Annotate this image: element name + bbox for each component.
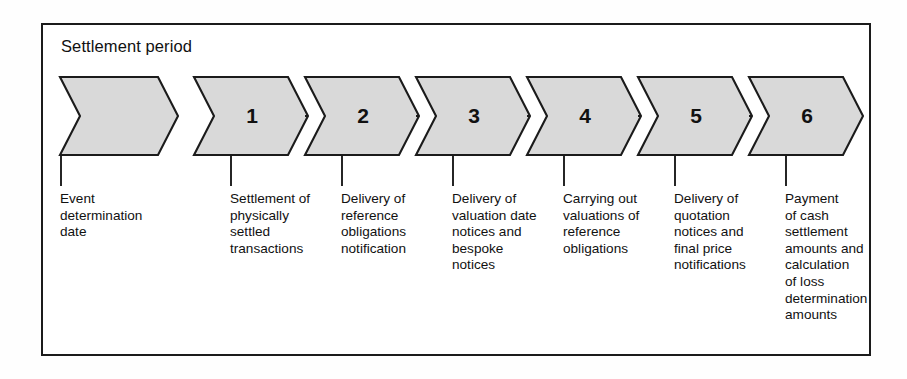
step-label-4: Carrying out valuations of reference obl… — [563, 191, 661, 257]
settlement-period-frame: Settlement period 123456 Event determina… — [41, 23, 871, 356]
chevron-number-4: 4 — [579, 104, 591, 127]
diagram-page: Settlement period 123456 Event determina… — [0, 0, 907, 379]
chevron-number-6: 6 — [801, 104, 813, 127]
chevron-number-3: 3 — [468, 104, 480, 127]
step-label-6: Payment of cash settlement amounts and c… — [785, 191, 883, 324]
chevron-number-5: 5 — [690, 104, 702, 127]
chevron-number-1: 1 — [246, 104, 258, 127]
step-label-start: Event determination date — [60, 191, 168, 241]
chevron-step-start — [60, 77, 178, 155]
step-label-3: Delivery of valuation date notices and b… — [452, 191, 550, 274]
step-label-2: Delivery of reference obligations notifi… — [341, 191, 439, 257]
step-label-5: Delivery of quotation notices and final … — [674, 191, 772, 274]
step-label-1: Settlement of physically settled transac… — [230, 191, 328, 257]
chevron-number-2: 2 — [357, 104, 369, 127]
